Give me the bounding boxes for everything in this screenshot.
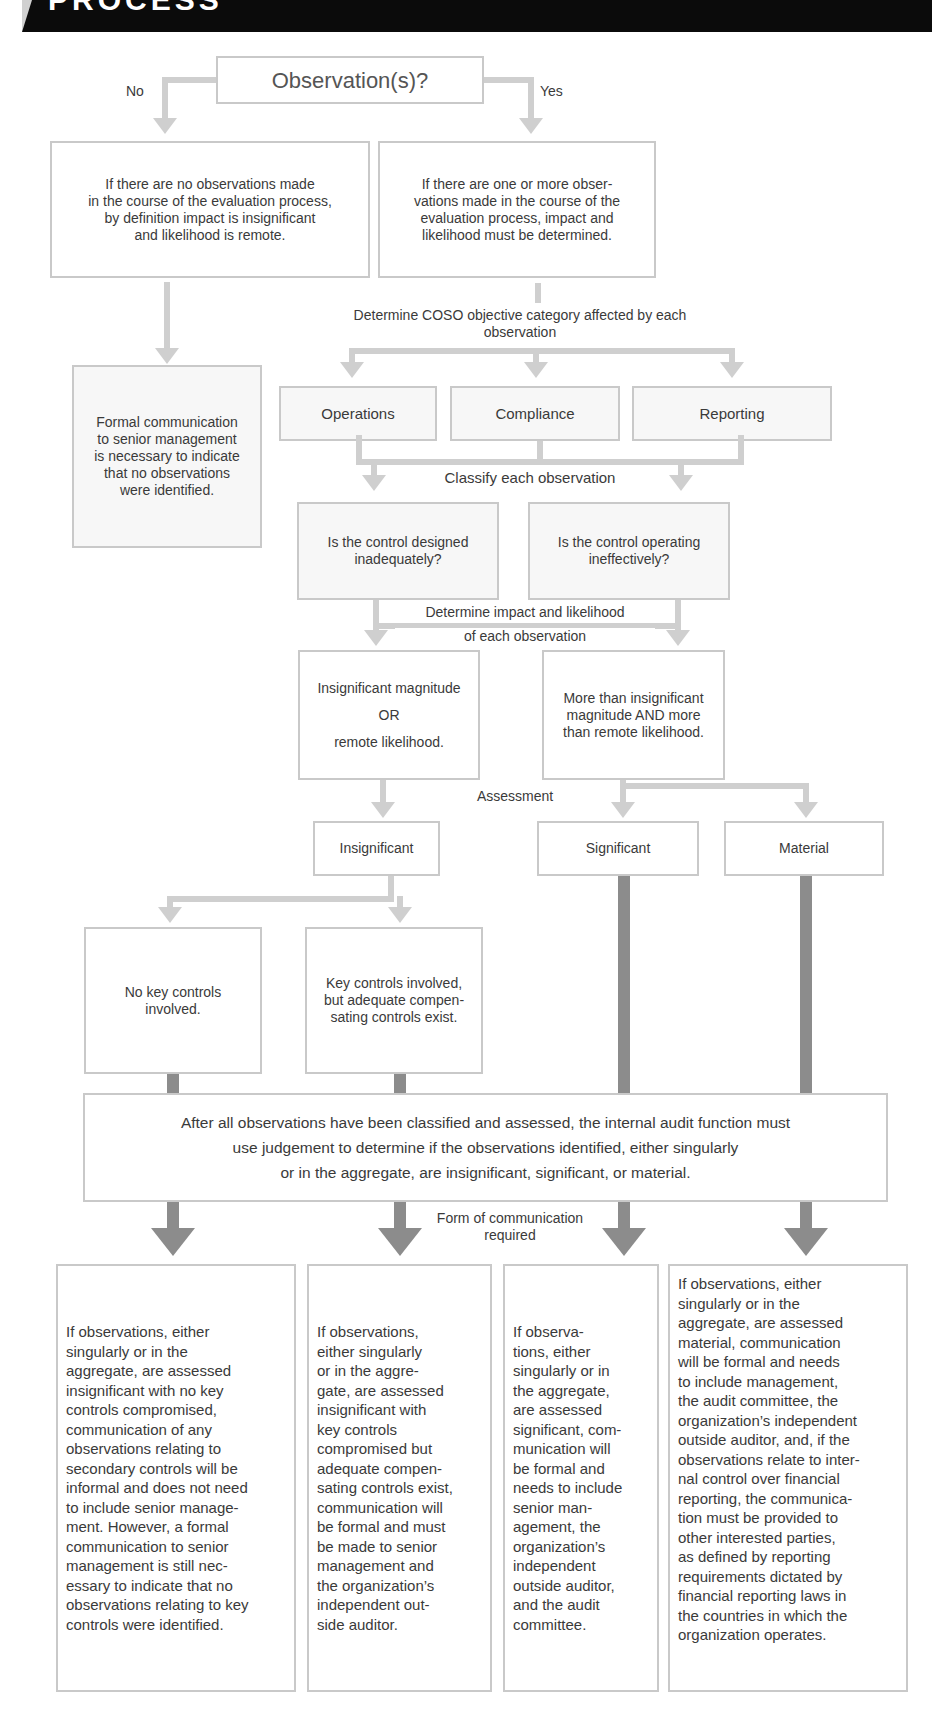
comp-heavy-connector: [394, 1074, 406, 1094]
no-key-controls-box: No key controls involved.: [84, 927, 262, 1074]
arrow-down-icon: [155, 348, 179, 364]
none-heavy-connector: [167, 1074, 179, 1094]
decision-box: Observation(s)?: [216, 56, 484, 104]
sig-heavy-connector: [618, 876, 630, 1094]
insignificant-magnitude-box: Insignificant magnitude OR remote likeli…: [298, 650, 480, 780]
arrow-down-icon: [340, 362, 364, 378]
arrow-down-icon: [602, 1228, 646, 1256]
comm-connector-1: [167, 1202, 179, 1228]
arrow-down-icon: [524, 362, 548, 378]
outcome-significant: If observa- tions, either singularly or …: [503, 1264, 659, 1692]
arrow-down-icon: [158, 907, 182, 923]
significant-magnitude-box: More than insignificant magnitude AND mo…: [542, 650, 725, 780]
assessment-connector: [620, 783, 809, 789]
arrow-down-icon: [784, 1228, 828, 1256]
aggregate-judgement-box: After all observations have been classif…: [83, 1093, 888, 1202]
outcome-insignificant-compensating: If observations, either singularly or in…: [307, 1264, 492, 1692]
no-observations-text: If there are no observations made in the…: [88, 176, 332, 244]
category-compliance: Compliance: [450, 386, 620, 441]
arrow-down-icon: [371, 802, 395, 818]
yes-connector: [484, 77, 534, 83]
no-branch-connector: [164, 282, 170, 352]
arrow-down-icon: [388, 907, 412, 923]
low-line2: OR: [379, 707, 400, 724]
impact-label-1: Determine impact and likelihood: [395, 604, 655, 621]
impact-label-2: of each observation: [395, 628, 655, 645]
header-slant-decoration: [22, 0, 32, 32]
classify-connector: [356, 459, 744, 465]
observations-text: If there are one or more obser- vations …: [414, 176, 620, 244]
operating-question-box: Is the control operating ineffectively?: [528, 502, 730, 600]
category-reporting: Reporting: [632, 386, 832, 441]
low-line3: remote likelihood.: [334, 734, 444, 751]
arrow-down-icon: [364, 630, 388, 646]
communication-label: Form of communication required: [420, 1210, 600, 1244]
arrow-down-icon: [378, 1228, 422, 1256]
decision-label: Observation(s)?: [272, 72, 429, 89]
outcome-insignificant-no-key: If observations, either singularly or in…: [56, 1264, 296, 1692]
yes-connector-down: [528, 77, 534, 121]
comm-connector-2: [394, 1202, 406, 1228]
low-line1: Insignificant magnitude: [317, 680, 460, 697]
insig-connector: [167, 896, 394, 902]
observations-box: If there are one or more obser- vations …: [378, 141, 656, 278]
formal-communication-box: Formal communication to senior managemen…: [72, 365, 262, 548]
mat-heavy-connector: [800, 876, 812, 1094]
comm-connector-4: [800, 1202, 812, 1228]
level-material: Material: [724, 821, 884, 876]
arrow-down-icon: [666, 630, 690, 646]
arrow-down-icon: [519, 118, 543, 134]
assessment-label: Assessment: [440, 788, 590, 805]
no-observations-box: If there are no observations made in the…: [50, 141, 370, 278]
no-connector: [162, 77, 216, 83]
header-title: PROCESS: [48, 0, 223, 16]
arrow-down-icon: [669, 475, 693, 491]
coso-connector: [349, 348, 735, 354]
yes-branch-connector: [535, 283, 541, 303]
aggregate-line2: use judgement to determine if the observ…: [233, 1135, 739, 1160]
level-significant: Significant: [537, 821, 699, 876]
compensating-controls-box: Key controls involved, but adequate comp…: [305, 927, 483, 1074]
design-question-box: Is the control designed inadequately?: [297, 502, 499, 600]
outcome-material: If observations, either singularly or in…: [668, 1264, 908, 1692]
arrow-down-icon: [720, 362, 744, 378]
no-connector-down: [162, 77, 168, 121]
aggregate-line1: After all observations have been classif…: [181, 1110, 790, 1135]
coso-label: Determine COSO objective category affect…: [300, 307, 740, 341]
arrow-down-icon: [362, 475, 386, 491]
arrow-down-icon: [151, 1228, 195, 1256]
arrow-down-icon: [794, 802, 818, 818]
arrow-down-icon: [153, 118, 177, 134]
category-operations: Operations: [279, 386, 437, 441]
no-label: No: [126, 83, 144, 100]
formal-communication-text: Formal communication to senior managemen…: [94, 414, 240, 499]
aggregate-line3: or in the aggregate, are insignificant, …: [280, 1160, 690, 1185]
comm-connector-3: [618, 1202, 630, 1228]
classify-label: Classify each observation: [400, 469, 660, 486]
arrow-down-icon: [611, 802, 635, 818]
yes-label: Yes: [540, 83, 563, 100]
level-insignificant: Insignificant: [313, 821, 440, 876]
